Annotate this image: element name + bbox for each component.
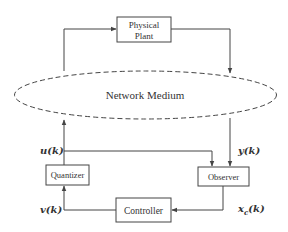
signal-v-label: v(k)	[40, 204, 62, 215]
network-medium-block: Network Medium	[15, 71, 277, 119]
quantizer-block: Quantizer	[46, 165, 89, 185]
controller-block: Controller	[116, 198, 171, 222]
physical-plant-block: Physical Plant	[117, 17, 171, 42]
controller-label: Controller	[124, 206, 164, 216]
observer-to-controller-arrow	[172, 186, 223, 210]
signal-y-label: y(k)	[237, 145, 260, 156]
plant-label-line2: Plant	[135, 31, 154, 41]
signal-u-label: u(k)	[40, 145, 64, 156]
signal-xc-label: xc(k)	[237, 203, 265, 217]
plant-to-network-arrow	[171, 29, 230, 73]
controller-to-quantizer-arrow	[64, 186, 116, 210]
u-to-observer-arrow	[64, 151, 212, 166]
observer-block: Observer	[198, 167, 249, 186]
quantizer-label: Quantizer	[51, 170, 85, 180]
observer-label: Observer	[208, 172, 239, 182]
network-control-diagram: Physical Plant Network Medium y(k) u(k) …	[0, 0, 288, 232]
network-medium-label: Network Medium	[106, 89, 185, 101]
plant-label-line1: Physical	[129, 20, 160, 30]
network-to-plant-arrow	[64, 29, 116, 71]
